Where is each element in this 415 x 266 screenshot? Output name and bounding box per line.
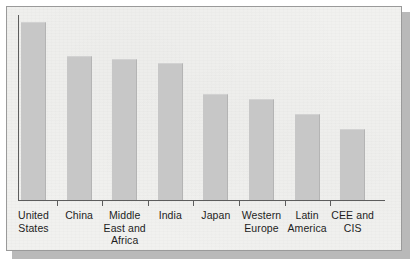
label-line: Western <box>240 209 283 222</box>
bar <box>203 94 228 200</box>
x-axis-category-label: CEE andCIS <box>331 209 374 234</box>
label-line: East and <box>103 222 146 235</box>
label-line: India <box>149 209 192 222</box>
label-line: Middle <box>103 209 146 222</box>
bar <box>21 22 46 200</box>
bar <box>249 99 274 200</box>
label-line: Japan <box>194 209 237 222</box>
x-axis-category-label: China <box>58 209 101 222</box>
x-axis-tick <box>330 200 331 206</box>
x-axis-category-label: LatinAmerica <box>286 209 329 234</box>
label-line: CEE and <box>331 209 374 222</box>
label-line: Europe <box>240 222 283 235</box>
label-line: CIS <box>331 222 374 235</box>
x-axis-category-label: UnitedStates <box>12 209 55 234</box>
x-axis-category-labels: UnitedStatesChinaMiddleEast andAfricaInd… <box>18 209 396 251</box>
bar <box>158 63 183 200</box>
x-axis-category-label: MiddleEast andAfrica <box>103 209 146 247</box>
label-line: China <box>58 209 101 222</box>
x-axis-tick <box>285 200 286 206</box>
label-line: America <box>286 222 329 235</box>
label-line: United <box>12 209 55 222</box>
x-axis-category-label: India <box>149 209 192 222</box>
plot-area <box>18 15 396 201</box>
label-line: Africa <box>103 234 146 247</box>
x-axis-tick <box>193 200 194 206</box>
bar-series <box>18 15 396 201</box>
bar <box>295 114 320 200</box>
x-axis-category-label: WesternEurope <box>240 209 283 234</box>
x-axis-category-label: Japan <box>194 209 237 222</box>
x-axis-tick <box>239 200 240 206</box>
chart-panel: UnitedStatesChinaMiddleEast andAfricaInd… <box>6 6 402 251</box>
bar <box>67 56 92 200</box>
bar <box>112 59 137 200</box>
x-axis-tick <box>102 200 103 206</box>
label-line: Latin <box>286 209 329 222</box>
bar <box>340 129 365 200</box>
x-axis-tick <box>148 200 149 206</box>
figure-root: UnitedStatesChinaMiddleEast andAfricaInd… <box>0 0 415 266</box>
label-line: States <box>12 222 55 235</box>
x-axis-tick <box>57 200 58 206</box>
